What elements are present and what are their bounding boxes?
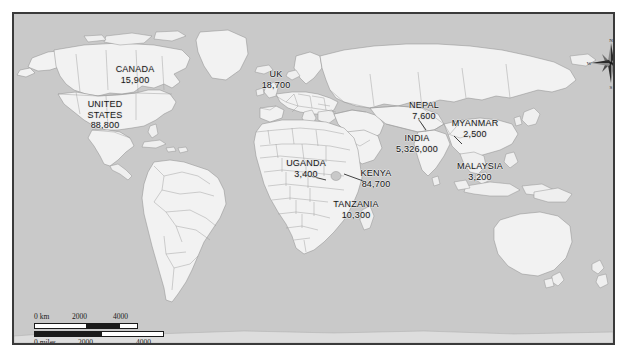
- miles-scale-segment: [35, 332, 102, 336]
- miles-tick-2000: 2000: [78, 338, 93, 345]
- label-value-united-states: 88,800: [88, 120, 123, 131]
- label-name-kenya: KENYA: [361, 168, 392, 179]
- world-map[interactable]: .land { fill:#f2f2f2; stroke:#8d8d8d; st…: [12, 12, 615, 345]
- map-label-united-states[interactable]: UNITEDSTATES 88,800: [88, 99, 123, 131]
- label-value-tanzania: 10,300: [333, 210, 378, 221]
- label-name-myanmar: MYANMAR: [452, 118, 499, 129]
- map-label-uk[interactable]: UK 18,700: [262, 69, 291, 90]
- label-value-myanmar: 2,500: [452, 129, 499, 140]
- label-name-united-states: UNITEDSTATES: [88, 99, 123, 120]
- label-name-india: INDIA: [396, 133, 438, 144]
- km-tick-0: 0 km: [34, 312, 49, 321]
- km-scale-bar: [34, 323, 138, 329]
- map-label-nepal[interactable]: NEPAL 7,600: [409, 100, 439, 121]
- miles-tick-0: 0 miles: [34, 338, 56, 345]
- map-page: .land { fill:#f2f2f2; stroke:#8d8d8d; st…: [0, 0, 627, 362]
- map-label-malaysia[interactable]: MALAYSIA 3,200: [457, 161, 503, 182]
- label-value-india: 5,326,000: [396, 144, 438, 155]
- label-name-canada: CANADA: [116, 64, 155, 75]
- map-label-india[interactable]: INDIA 5,326,000: [396, 133, 438, 154]
- compass-label-north: N: [609, 38, 613, 43]
- label-name-uk: UK: [262, 69, 291, 80]
- map-label-kenya[interactable]: KENYA 84,700: [361, 168, 392, 189]
- km-scale-segment: [86, 324, 120, 328]
- label-name-tanzania: TANZANIA: [333, 199, 378, 210]
- label-value-kenya: 84,700: [361, 179, 392, 190]
- km-tick-4000: 4000: [113, 312, 128, 321]
- miles-scale-bar: [34, 331, 164, 337]
- compass-star: [591, 43, 615, 83]
- map-label-myanmar[interactable]: MYANMAR 2,500: [452, 118, 499, 139]
- label-value-uk: 18,700: [262, 80, 291, 91]
- map-label-tanzania[interactable]: TANZANIA 10,300: [333, 199, 378, 220]
- label-value-uganda: 3,400: [286, 169, 326, 180]
- label-name-uganda: UGANDA: [286, 158, 326, 169]
- compass-label-west: W: [587, 61, 592, 66]
- label-value-canada: 15,900: [116, 75, 155, 86]
- label-value-malaysia: 3,200: [457, 172, 503, 183]
- map-label-uganda[interactable]: UGANDA 3,400: [286, 158, 326, 179]
- miles-scale-ticks: 0 miles 2000 4000: [34, 338, 170, 345]
- km-scale-ticks: 0 km 2000 4000: [34, 312, 170, 323]
- scale-bars: 0 km 2000 4000 0 miles 2000 4000: [34, 312, 170, 345]
- compass-label-south: S: [610, 85, 613, 90]
- km-tick-2000: 2000: [72, 312, 87, 321]
- label-name-malaysia: MALAYSIA: [457, 161, 503, 172]
- compass-rose: N S E W: [586, 36, 615, 90]
- label-value-nepal: 7,600: [409, 111, 439, 122]
- miles-tick-4000: 4000: [136, 338, 151, 345]
- map-label-canada[interactable]: CANADA 15,900: [116, 64, 155, 85]
- label-name-nepal: NEPAL: [409, 100, 439, 111]
